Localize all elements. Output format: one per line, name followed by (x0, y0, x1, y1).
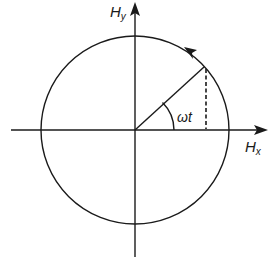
angle-arc (163, 103, 175, 131)
field-vector (135, 67, 204, 130)
x-axis-label: Hx (245, 138, 262, 157)
rotating-field-diagram: Hy Hx ωt (0, 0, 270, 275)
y-axis-label: Hy (110, 3, 127, 22)
angle-label: ωt (177, 109, 193, 125)
